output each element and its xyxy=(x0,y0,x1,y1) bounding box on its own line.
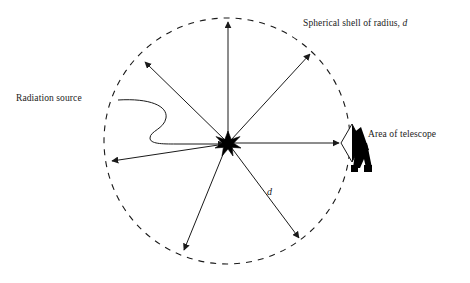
ray-group xyxy=(112,22,339,250)
ray-left xyxy=(112,144,225,161)
ray-lower-left xyxy=(184,147,226,250)
telescope-label: Area of telescope xyxy=(368,129,436,140)
shell-label: Spherical shell of radius, d xyxy=(303,18,407,29)
ray-upper-right xyxy=(231,54,310,140)
radiation-source-leader xyxy=(118,100,224,144)
shell-label-symbol: d xyxy=(403,18,408,28)
radiation-shell-diagram: Spherical shell of radius, d Radiation s… xyxy=(0,0,470,283)
ray-lower-right xyxy=(231,147,299,238)
shell-label-text: Spherical shell of radius, xyxy=(303,18,400,28)
diagram-canvas xyxy=(0,0,470,283)
radiation-source-label: Radiation source xyxy=(16,93,82,104)
radius-symbol-label: d xyxy=(267,186,272,198)
telescope-base-icon xyxy=(351,165,372,172)
